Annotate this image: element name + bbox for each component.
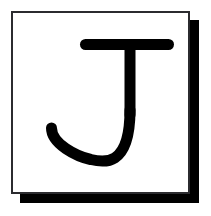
glyph-container: Letter J	[13, 13, 188, 192]
letter-j-icon	[13, 13, 192, 196]
canvas-root: Letter J	[0, 0, 211, 216]
letter-card: Letter J	[11, 11, 190, 194]
letter-j-hook	[52, 110, 131, 161]
